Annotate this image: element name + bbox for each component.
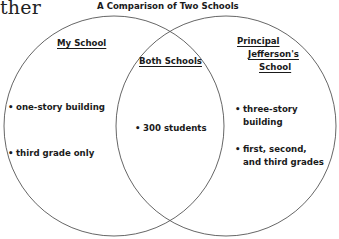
bullet-icon: • — [8, 147, 16, 160]
right-item-text-line2: and third grades — [243, 157, 324, 167]
left-set-label: My School — [57, 37, 106, 50]
right-set-label-line3: School — [259, 61, 291, 74]
overlap-item: •300 students — [135, 122, 207, 135]
overlap-label: Both Schools — [139, 55, 202, 68]
bullet-icon: • — [135, 122, 143, 135]
overlap-item-text: 300 students — [143, 123, 207, 133]
right-item-text-line1: first, second, — [243, 144, 307, 154]
right-item-text-line1: three-story — [243, 104, 298, 114]
left-item-text: one-story building — [16, 102, 105, 112]
left-item: •third grade only — [8, 147, 94, 160]
bullet-icon: • — [235, 143, 243, 156]
left-item-text: third grade only — [16, 148, 94, 158]
right-item: •three-story building — [235, 103, 298, 129]
right-item: •first, second, and third grades — [235, 143, 324, 169]
bullet-icon: • — [235, 103, 243, 116]
right-set-label-line1: Principal — [237, 35, 280, 48]
bullet-icon: • — [8, 101, 16, 114]
right-set-label-line2: Jefferson's — [248, 48, 299, 61]
right-item-text-line2: building — [243, 117, 283, 127]
left-item: •one-story building — [8, 101, 105, 114]
